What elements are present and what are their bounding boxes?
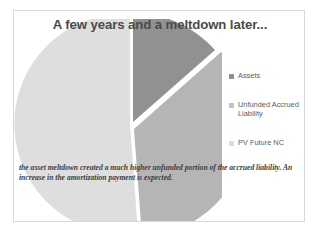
legend-item-label: PV Future NC: [238, 138, 284, 148]
slide-screenshot: A few years and a meltdown later... Asse…: [0, 0, 321, 241]
pie-slice-assets[interactable]: [14, 19, 138, 222]
legend-item-label: Unfunded Accrued Liability: [238, 100, 305, 119]
chart-legend: Assets Unfunded Accrued Liability PV Fut…: [229, 71, 305, 166]
legend-item-assets[interactable]: Assets: [229, 71, 305, 81]
chart-title: A few years and a meltdown later...: [14, 17, 305, 32]
legend-swatch-icon: [229, 103, 234, 108]
slide-caption: the asset meltdown created a much higher…: [19, 163, 303, 183]
legend-item-pv-future-nc[interactable]: PV Future NC: [229, 138, 305, 148]
legend-item-label: Assets: [238, 71, 260, 81]
legend-swatch-icon: [229, 74, 234, 79]
legend-item-unfunded-accrued-liability[interactable]: Unfunded Accrued Liability: [229, 100, 305, 119]
pie-chart-svg: [13, 19, 222, 222]
slide-frame: A few years and a meltdown later... Asse…: [13, 10, 305, 222]
legend-swatch-icon: [229, 141, 234, 146]
